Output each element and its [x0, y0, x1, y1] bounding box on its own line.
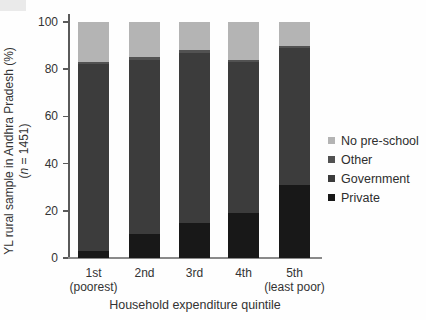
- bar-segment-private: [129, 234, 160, 258]
- y-tick-label: 60: [34, 110, 58, 122]
- bar-segment-other: [228, 60, 259, 62]
- legend-label: No pre-school: [341, 134, 419, 148]
- legend-swatch-icon: [328, 194, 335, 201]
- bar-segment-private: [228, 213, 259, 258]
- y-axis-title: YL rural sample in Andhra Pradesh (%) (n…: [2, 31, 36, 271]
- legend-item-other: Other: [328, 150, 419, 169]
- y-tick-mark: [63, 21, 68, 23]
- legend-label: Other: [341, 153, 372, 167]
- y-axis-title-line1: YL rural sample in Andhra Pradesh (%): [2, 31, 17, 271]
- bar-segment-private: [279, 185, 310, 258]
- stacked-bar-1st: [78, 0, 109, 258]
- y-tick-mark: [63, 68, 68, 70]
- bar-segment-government: [129, 60, 160, 235]
- y-axis-line: [68, 14, 70, 258]
- y-tick-mark: [63, 210, 68, 212]
- bar-segment-government: [179, 53, 210, 223]
- y-tick-mark: [63, 163, 68, 165]
- stacked-bar-3rd: [179, 0, 210, 258]
- legend-swatch-icon: [328, 137, 335, 144]
- x-category-sublabel: (poorest): [49, 280, 139, 294]
- legend: No pre-schoolOtherGovernmentPrivate: [328, 131, 419, 207]
- legend-swatch-icon: [328, 175, 335, 182]
- stacked-bar-2nd: [129, 0, 160, 258]
- bar-segment-private: [179, 223, 210, 258]
- y-tick-label: 20: [34, 205, 58, 217]
- x-category-sublabel: (least poor): [250, 280, 340, 294]
- bar-segment-no-pre-school: [78, 22, 109, 62]
- y-axis-title-line2: (n = 1451): [17, 31, 32, 271]
- stacked-bar-chart-figure: YL rural sample in Andhra Pradesh (%) (n…: [0, 0, 426, 320]
- legend-swatch-icon: [328, 156, 335, 163]
- bar-segment-other: [279, 46, 310, 48]
- y-tick-mark: [63, 257, 68, 259]
- y-tick-label: 80: [34, 63, 58, 75]
- y-tick-label: 100: [34, 16, 58, 28]
- y-tick-label: 40: [34, 158, 58, 170]
- bar-segment-no-pre-school: [279, 22, 310, 46]
- scan-artifact: [0, 0, 26, 11]
- sample-size-n: n: [17, 168, 31, 175]
- x-category-label: 5th: [250, 266, 340, 280]
- stacked-bar-5th: [279, 0, 310, 258]
- bar-segment-private: [78, 251, 109, 258]
- legend-item-private: Private: [328, 188, 419, 207]
- legend-label: Private: [341, 191, 380, 205]
- y-tick-mark: [63, 116, 68, 118]
- bar-segment-government: [228, 62, 259, 213]
- bar-segment-other: [78, 62, 109, 64]
- bar-segment-other: [129, 57, 160, 59]
- bar-segment-government: [78, 64, 109, 250]
- legend-label: Government: [341, 172, 410, 186]
- bar-segment-government: [279, 48, 310, 185]
- legend-item-no-pre-school: No pre-school: [328, 131, 419, 150]
- bar-segment-no-pre-school: [179, 22, 210, 50]
- x-axis-title: Household expenditure quintile: [68, 298, 322, 312]
- y-tick-label: 0: [34, 252, 58, 264]
- bar-segment-no-pre-school: [129, 22, 160, 57]
- legend-item-government: Government: [328, 169, 419, 188]
- bar-segment-no-pre-school: [228, 22, 259, 60]
- stacked-bar-4th: [228, 0, 259, 258]
- bar-segment-other: [179, 50, 210, 52]
